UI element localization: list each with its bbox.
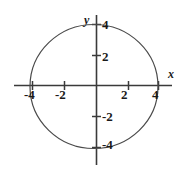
y-axis-label: y xyxy=(84,14,89,26)
y-tick-label-neg2: -2 xyxy=(102,110,113,123)
x-tick-label-pos2: 2 xyxy=(121,88,128,101)
x-tick-label-neg2: -2 xyxy=(55,88,66,101)
x-axis-label: x xyxy=(168,68,174,80)
y-tick-label-pos4: 4 xyxy=(102,18,109,31)
plot-canvas xyxy=(0,0,185,171)
x-tick-label-pos4: 4 xyxy=(152,88,159,101)
x-tick-label-neg4: -4 xyxy=(24,88,35,101)
y-tick-label-neg4: -4 xyxy=(102,138,113,151)
y-tick-label-pos2: 2 xyxy=(102,50,109,63)
circle-graph-figure: -4 -2 2 4 4 2 -2 -4 y x xyxy=(0,0,185,171)
circle-curve xyxy=(30,25,158,149)
